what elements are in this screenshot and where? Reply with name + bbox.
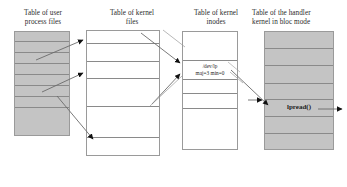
table-row: [15, 96, 69, 97]
table-row: [15, 52, 69, 53]
column-title-line2: inodes: [178, 18, 254, 27]
table-row: [87, 61, 159, 62]
inode-cell-device-path: /dev/lp: [183, 63, 237, 69]
table-row: [265, 116, 333, 117]
table-kernel-inodes: /dev/lp maj=3 min=0: [182, 31, 238, 150]
table-user-process-files: [14, 31, 70, 136]
table-row: [87, 43, 159, 44]
table-row: [183, 79, 237, 80]
column-title-line2: kernel in bloc mode: [252, 18, 346, 27]
column-title-handler-kernel: Table of the handler kernel in bloc mode: [252, 9, 346, 26]
table-row: [15, 107, 69, 108]
column-title-user-process-files: Table of user process files: [2, 9, 84, 26]
table-row: [265, 83, 333, 84]
table-handler-kernel-bloc-mode: lpread(): [264, 31, 334, 150]
table-row: [15, 74, 69, 75]
column-title-line2: process files: [2, 18, 84, 27]
table-row: [183, 108, 237, 109]
table-row: [87, 137, 159, 138]
inode-cell-device-numbers: maj=3 min=0: [183, 70, 237, 76]
table-row: [183, 60, 237, 61]
column-title-line2: files: [94, 18, 170, 27]
table-row: [87, 106, 159, 107]
table-row: [265, 133, 333, 134]
table-kernel-files: [86, 30, 160, 156]
column-title-kernel-files: Table of kernel files: [94, 9, 170, 26]
table-row: [265, 65, 333, 66]
column-title-line1: Table of the handler: [252, 9, 346, 18]
table-row: [265, 99, 333, 100]
column-title-line1: Table of user: [2, 9, 84, 18]
column-title-line1: Table of kernel: [178, 9, 254, 18]
table-row: [15, 85, 69, 86]
column-title-line1: Table of kernel: [94, 9, 170, 18]
handler-cell-lpread: lpread(): [265, 103, 333, 111]
table-row: [183, 93, 237, 94]
table-row: [87, 78, 159, 79]
column-title-kernel-inodes: Table of kernel inodes: [178, 9, 254, 26]
table-row: [265, 48, 333, 49]
table-row: [15, 63, 69, 64]
diagram-canvas: Table of user process files Table of ker…: [0, 0, 347, 187]
table-row: [15, 41, 69, 42]
